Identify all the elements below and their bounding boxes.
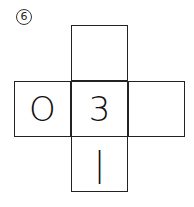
net-cell-center: 3 xyxy=(71,81,128,137)
net-cell-top xyxy=(71,25,128,81)
net-cell-bottom: | xyxy=(71,136,128,192)
net-cell-right xyxy=(128,81,185,137)
net-cell-left: O xyxy=(14,81,71,137)
problem-number-badge: 6 xyxy=(16,9,32,25)
